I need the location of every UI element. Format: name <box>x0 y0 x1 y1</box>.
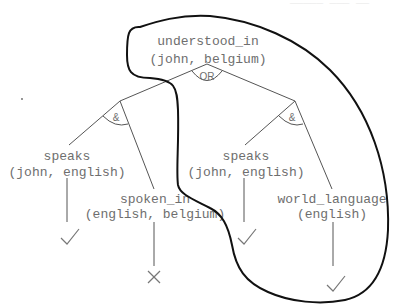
right-speaks-predicate: speaks <box>223 149 270 164</box>
left-and-connector: & <box>103 112 128 125</box>
left-and-label: & <box>113 112 120 123</box>
spoken-in-node: spoken_in (english, belgium) <box>85 192 225 222</box>
world-language-node: world_language (english) <box>277 192 386 222</box>
or-connector: OR <box>192 71 222 82</box>
or-label: OR <box>200 71 215 82</box>
cross-icon <box>148 271 160 283</box>
right-and-label: & <box>289 112 296 123</box>
check-icon <box>238 229 256 244</box>
spoken-in-predicate: spoken_in <box>120 192 190 207</box>
edge-root-right <box>207 64 295 101</box>
world-language-args: (english) <box>297 207 367 222</box>
root-predicate: understood_in <box>157 34 258 49</box>
world-language-predicate: world_language <box>277 192 386 207</box>
check-icon <box>61 229 79 244</box>
check-icon <box>327 276 345 291</box>
cut-off-header-text: _____ ___ __ <box>289 0 370 6</box>
left-speaks-predicate: speaks <box>44 149 91 164</box>
right-speaks-args: (john, english) <box>187 165 304 180</box>
right-speaks-node: speaks (john, english) <box>187 149 304 180</box>
left-speaks-node: speaks (john, english) <box>8 149 125 180</box>
and-or-tree-diagram: _____ ___ __ understood_in (john, belgiu… <box>0 0 393 308</box>
spoken-in-args: (english, belgium) <box>85 207 225 222</box>
edge-root-left <box>120 64 207 101</box>
stray-dot <box>21 98 23 100</box>
right-and-connector: & <box>279 112 303 125</box>
root-node: understood_in (john, belgium) <box>149 34 266 67</box>
left-speaks-args: (john, english) <box>8 165 125 180</box>
